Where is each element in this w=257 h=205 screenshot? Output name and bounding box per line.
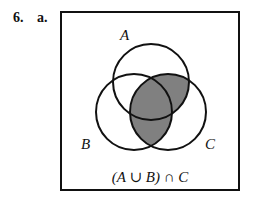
venn-diagram: A B C (A ∪ B) ∩ C (0, 0, 257, 205)
shaded-region (96, 44, 189, 150)
label-b: B (81, 136, 90, 152)
label-a: A (119, 27, 130, 43)
set-expression: (A ∪ B) ∩ C (112, 169, 189, 186)
label-c: C (205, 136, 216, 152)
